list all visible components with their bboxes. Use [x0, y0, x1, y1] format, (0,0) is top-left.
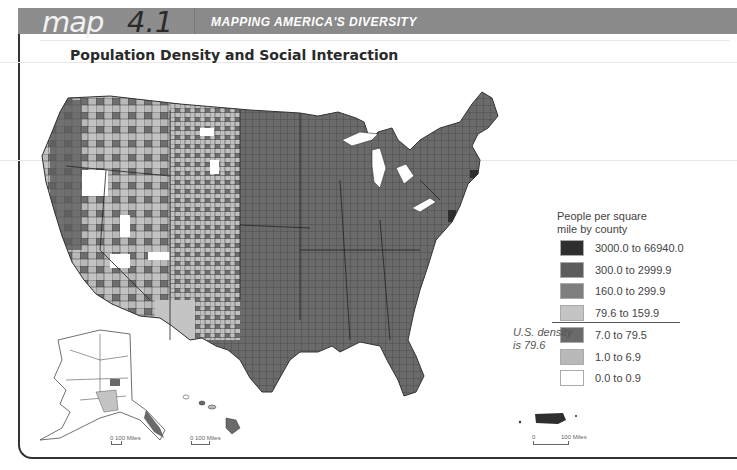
legend-label: 1.0 to 6.9 — [595, 351, 641, 363]
alaska-inset — [40, 330, 165, 440]
pr-scale-zero: 0 — [532, 434, 535, 440]
pr-scale-miles: 100 Miles — [561, 434, 587, 440]
legend-swatch — [560, 262, 584, 278]
legend-label: 160.0 to 299.9 — [595, 285, 665, 297]
legend-title-line2: mile by county — [557, 223, 667, 236]
us-density-note: U.S. density is 79.6 — [513, 326, 572, 352]
legend-swatch — [560, 283, 584, 299]
legend-label: 0.0 to 0.9 — [595, 372, 641, 384]
density-note-line2: is 79.6 — [513, 339, 572, 352]
legend-swatch — [560, 240, 584, 256]
legend-swatch — [560, 305, 584, 321]
hawaii-scale-bar — [191, 441, 210, 445]
pr-scale-bar — [533, 441, 569, 445]
legend-label: 7.0 to 79.5 — [595, 329, 647, 341]
legend-swatch — [560, 370, 584, 386]
alaska-scale-bar — [111, 441, 122, 445]
legend-title-line1: People per square — [557, 210, 667, 223]
legend-label: 300.0 to 2999.9 — [595, 264, 671, 276]
puerto-rico-inset — [519, 413, 577, 424]
density-note-line1: U.S. density — [513, 326, 572, 339]
legend-title: People per square mile by county — [557, 210, 667, 236]
legend-label: 79.6 to 159.9 — [595, 307, 659, 319]
hawaii-inset — [183, 395, 240, 434]
national-average-divider — [552, 322, 680, 323]
legend-label: 3000.0 to 66940.0 — [595, 242, 684, 254]
